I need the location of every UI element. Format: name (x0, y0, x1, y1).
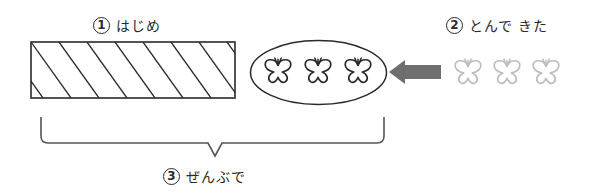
initial-block (3, 42, 267, 98)
label-start-text: はじめ (116, 15, 161, 35)
butterfly-group (251, 41, 387, 105)
incoming-butterflies (455, 59, 559, 83)
label-total: 3 ぜんぶで (163, 166, 246, 186)
butterfly-icon (455, 59, 481, 83)
butterfly-icon (494, 59, 520, 83)
label-total-text: ぜんぶで (186, 166, 246, 186)
butterfly-icon (265, 58, 291, 82)
number-badge: 2 (446, 17, 463, 34)
arrow-left-icon (389, 60, 441, 84)
total-brace (41, 117, 384, 156)
label-start: 1 はじめ (93, 15, 161, 35)
butterfly-icon (345, 58, 371, 82)
label-came: 2 とんで きた (446, 15, 548, 35)
butterfly-icon (305, 58, 331, 82)
number-badge: 3 (163, 168, 180, 185)
butterfly-icon (533, 59, 559, 83)
label-came-text: とんで きた (469, 15, 548, 35)
number-badge: 1 (93, 17, 110, 34)
